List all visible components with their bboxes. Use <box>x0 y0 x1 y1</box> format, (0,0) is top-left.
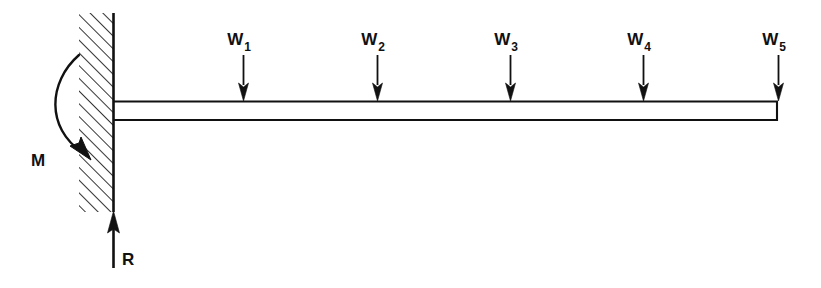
cantilever-beam <box>113 101 778 121</box>
wall-hatch-fill <box>79 13 113 212</box>
load-arrowhead <box>373 83 383 101</box>
reaction-label: R <box>122 250 134 269</box>
load-label-subscript: 3 <box>511 40 518 54</box>
point-loads-group: W1W2W3W4W5 <box>227 30 786 101</box>
load-label-subscript: 4 <box>644 40 651 54</box>
reaction-arrow: R <box>108 211 135 269</box>
point-load-w3: W3 <box>494 30 518 101</box>
free-body-diagram-canvas: W1W2W3W4W5 M R <box>0 0 821 288</box>
moment-arc-path <box>55 55 82 152</box>
load-arrowhead <box>774 83 784 101</box>
load-arrowhead <box>239 83 249 101</box>
load-arrowhead <box>639 83 649 101</box>
load-label: W3 <box>494 30 518 54</box>
diagram-svg: W1W2W3W4W5 M R <box>0 0 821 288</box>
load-label: W1 <box>227 30 251 54</box>
load-label-subscript: 2 <box>378 40 385 54</box>
point-load-w2: W2 <box>361 30 385 101</box>
load-label: W5 <box>762 30 786 54</box>
load-label: W2 <box>361 30 385 54</box>
point-load-w1: W1 <box>227 30 251 101</box>
load-arrowhead <box>506 83 516 101</box>
load-label-subscript: 1 <box>244 40 251 54</box>
moment-label: M <box>31 151 45 170</box>
load-label: W4 <box>627 30 651 54</box>
fixed-support-wall <box>79 13 114 212</box>
point-load-w4: W4 <box>627 30 651 101</box>
point-load-w5: W5 <box>762 30 786 101</box>
load-label-subscript: 5 <box>779 40 786 54</box>
